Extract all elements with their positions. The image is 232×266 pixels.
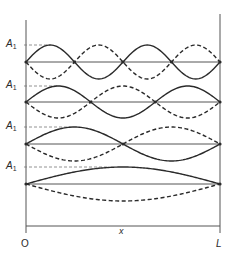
node-dot bbox=[24, 100, 27, 103]
amplitude-label: A1 bbox=[6, 80, 17, 91]
node-dot bbox=[121, 142, 124, 145]
node-dot bbox=[24, 142, 27, 145]
origin-label: O bbox=[21, 239, 29, 249]
node-dot bbox=[218, 100, 221, 103]
node-dot bbox=[218, 142, 221, 145]
modes-group bbox=[24, 45, 222, 201]
node-dot bbox=[170, 60, 173, 63]
amplitude-label: A1 bbox=[6, 161, 17, 172]
node-dot bbox=[89, 100, 92, 103]
mode-n3 bbox=[24, 86, 222, 118]
node-dot bbox=[73, 60, 76, 63]
node-dot bbox=[154, 100, 157, 103]
x-axis-label: x bbox=[119, 227, 124, 236]
mode-n4 bbox=[24, 45, 222, 79]
amplitude-label: A1 bbox=[6, 39, 17, 50]
wave-dashed bbox=[26, 184, 220, 201]
end-label: L bbox=[216, 239, 222, 249]
node-dot bbox=[121, 60, 124, 63]
node-dot bbox=[24, 182, 27, 185]
node-dot bbox=[218, 60, 221, 63]
mode-n1 bbox=[24, 167, 222, 201]
wave-solid bbox=[26, 167, 220, 184]
mode-n2 bbox=[24, 127, 222, 161]
amplitude-label: A1 bbox=[6, 121, 17, 132]
node-dot bbox=[24, 60, 27, 63]
node-dot bbox=[218, 182, 221, 185]
standing-wave-diagram bbox=[0, 0, 232, 266]
